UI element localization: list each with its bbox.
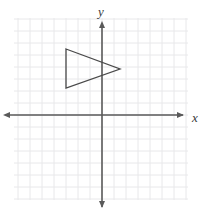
x-axis-label: x: [191, 110, 198, 125]
axes: [9, 27, 183, 207]
coordinate-plane-figure: x y: [0, 0, 209, 217]
y-axis-label: y: [96, 4, 104, 19]
grid-lines: [14, 18, 188, 200]
coordinate-plane-svg: x y: [0, 0, 209, 217]
